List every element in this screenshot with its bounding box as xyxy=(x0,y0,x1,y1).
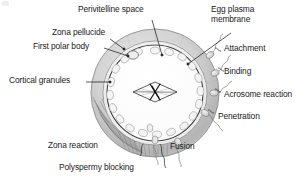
label-binding: Binding xyxy=(224,67,251,77)
fertilization-diagram: Perivitelline space Egg plasma membrane … xyxy=(0,0,306,180)
label-first-polar-body: First polar body xyxy=(33,42,89,52)
label-zona-pellucide: Zona pellucide xyxy=(52,28,105,38)
label-perivitelline-space: Perivitelline space xyxy=(78,5,144,15)
first-polar-body xyxy=(128,51,139,59)
label-penetration: Penetration xyxy=(218,112,260,122)
label-acrosome-reaction: Acrosome reaction xyxy=(224,90,292,100)
label-fusion: Fusion xyxy=(170,142,195,152)
label-polyspermy-blocking: Polyspermy blocking xyxy=(59,163,134,173)
label-zona-reaction: Zona reaction xyxy=(48,141,98,151)
sperm-attachment xyxy=(205,34,223,60)
label-cortical-granules: Cortical granules xyxy=(9,76,70,86)
label-attachment: Attachment xyxy=(224,44,265,54)
label-egg-plasma-membrane-line2: membrane xyxy=(211,15,250,25)
